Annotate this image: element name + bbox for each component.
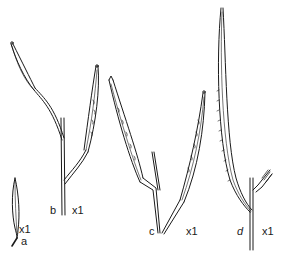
specimen-b-scale: x1 xyxy=(72,205,84,216)
specimen-a-scale: x1 xyxy=(19,224,31,235)
specimen-a-label: a xyxy=(21,236,27,247)
specimen-c-label: c xyxy=(149,226,155,237)
specimen-a-pod xyxy=(12,178,19,246)
specimen-d-scale: x1 xyxy=(262,226,274,237)
specimen-d-label: d xyxy=(237,226,243,237)
botanical-figure: x1 a b x1 c x1 d x1 xyxy=(0,0,285,261)
specimen-c xyxy=(109,76,205,234)
specimen-b-label: b xyxy=(50,205,56,216)
specimen-b xyxy=(11,42,99,215)
specimen-c-scale: x1 xyxy=(186,226,198,237)
seed-pod-drawings xyxy=(0,0,285,261)
specimen-d xyxy=(217,8,272,250)
